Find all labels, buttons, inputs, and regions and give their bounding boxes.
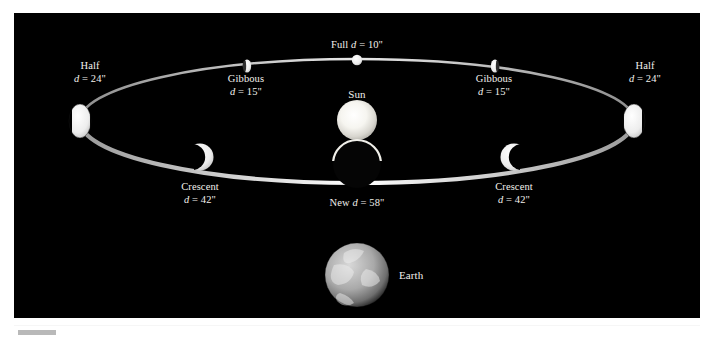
- caption-color-swatch: [18, 330, 56, 335]
- earth-body: [325, 243, 389, 307]
- caption-divider: [14, 325, 700, 326]
- sun-body: [337, 100, 377, 140]
- phase-marker-half-left: [69, 104, 91, 138]
- phase-marker-new: [333, 140, 381, 188]
- figure-root: Full d = 10" Gibbous d = 15" Gibbous d =…: [0, 0, 714, 340]
- phase-marker-crescent-left: [179, 144, 214, 171]
- orbit-diagram-svg: [14, 13, 700, 318]
- diagram-panel: Full d = 10" Gibbous d = 15" Gibbous d =…: [14, 13, 700, 318]
- phase-marker-crescent-right: [501, 144, 536, 171]
- phase-marker-gibbous-right: [491, 59, 500, 72]
- phase-marker-full: [352, 55, 362, 65]
- phase-marker-gibbous-left: [243, 59, 252, 72]
- phase-marker-half-right: [623, 104, 645, 138]
